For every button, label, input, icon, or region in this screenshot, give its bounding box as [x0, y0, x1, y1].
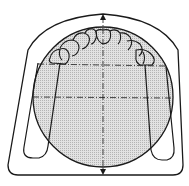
- arrow-down-icon: [100, 169, 106, 175]
- arrow-up-icon: [100, 14, 106, 20]
- dental-arch-diagram: [0, 0, 189, 186]
